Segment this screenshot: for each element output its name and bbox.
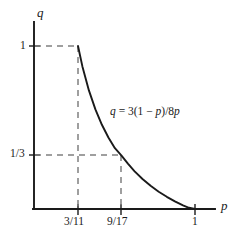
y-axis-label: q — [37, 6, 44, 19]
plot-canvas — [0, 0, 241, 242]
equation-middle: = 3(1 − — [116, 105, 156, 117]
curve-equation-annotation: q = 3(1 − p)/8p — [110, 106, 180, 118]
x-ticklabel-9-17: 9/17 — [107, 216, 127, 228]
y-ticklabel-one: 1 — [20, 40, 26, 52]
y-ticklabel-one-third: 1/3 — [10, 148, 25, 160]
curve-q-of-p — [78, 46, 195, 209]
x-ticklabel-3-11: 3/11 — [64, 216, 84, 228]
graph-figure: q p 1 1/3 3/11 9/17 1 q = 3(1 − p)/8p — [0, 0, 241, 242]
x-ticklabel-one: 1 — [192, 216, 198, 228]
equation-tail: )/8 — [161, 105, 174, 117]
equation-p-symbol-2: p — [174, 105, 180, 117]
x-axis-label: p — [221, 199, 228, 212]
